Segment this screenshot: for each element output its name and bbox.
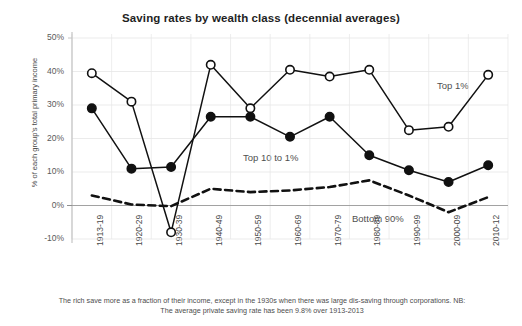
data-point-marker: [444, 123, 452, 131]
data-point-marker: [207, 61, 215, 69]
data-point-marker: [88, 104, 96, 112]
data-point-marker: [127, 164, 135, 172]
data-point-marker: [405, 126, 413, 134]
chart-container: Saving rates by wealth class (decennial …: [0, 0, 522, 326]
data-point-marker: [88, 69, 96, 77]
data-point-marker: [127, 97, 135, 105]
data-point-marker: [286, 133, 294, 141]
data-point-marker: [365, 66, 373, 74]
data-point-marker: [484, 161, 492, 169]
data-point-marker: [405, 166, 413, 174]
data-series-layer: [88, 61, 493, 237]
data-point-marker: [365, 151, 373, 159]
series-top-10-to-1: [88, 104, 493, 186]
data-point-marker: [444, 178, 452, 186]
plot-area: [0, 0, 522, 326]
data-point-marker: [484, 71, 492, 79]
chart-footnote: The rich save more as a fraction of thei…: [56, 296, 468, 317]
data-point-marker: [325, 72, 333, 80]
data-point-marker: [325, 113, 333, 121]
data-point-marker: [167, 228, 175, 236]
data-point-marker: [167, 163, 175, 171]
series-top-1: [88, 61, 493, 237]
data-point-marker: [207, 113, 215, 121]
data-point-marker: [246, 104, 254, 112]
data-point-marker: [246, 113, 254, 121]
data-point-marker: [286, 66, 294, 74]
